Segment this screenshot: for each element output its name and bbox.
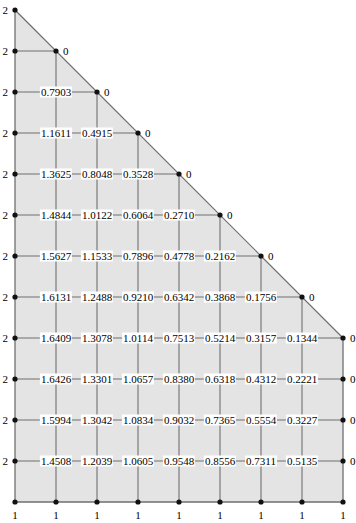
interior-value-label: 1.3301 [81, 374, 113, 385]
interior-value-label: 0.2710 [163, 210, 195, 221]
interior-value-label: 0.6342 [163, 292, 195, 303]
interior-value-label: 0.4915 [81, 128, 113, 139]
interior-value-label: 1.6426 [40, 374, 72, 385]
boundary-node [340, 335, 345, 340]
boundary-node [12, 335, 17, 340]
boundary-node [12, 294, 17, 299]
boundary-node [12, 253, 17, 258]
interior-value-label: 1.2488 [81, 292, 113, 303]
interior-value-label: 0.8048 [81, 169, 113, 180]
boundary-node [299, 294, 304, 299]
interior-value-label: 1.0122 [81, 210, 113, 221]
boundary-value-label: 1 [175, 510, 183, 521]
interior-value-label: 0.5554 [245, 415, 277, 426]
interior-value-label: 0.7311 [245, 456, 277, 467]
interior-value-label: 0.5135 [286, 456, 318, 467]
boundary-value-label: 1 [93, 510, 101, 521]
interior-value-label: 0.1756 [245, 292, 277, 303]
boundary-value-label: 0 [103, 87, 111, 98]
boundary-value-label: 0 [349, 374, 356, 385]
interior-value-label: 0.5214 [204, 333, 236, 344]
interior-value-label: 0.6318 [204, 374, 236, 385]
interior-value-label: 0.3528 [122, 169, 154, 180]
interior-value-label: 0.2162 [204, 251, 236, 262]
boundary-value-label: 2 [2, 333, 10, 344]
interior-value-label: 0.1344 [286, 333, 318, 344]
boundary-node [12, 130, 17, 135]
interior-value-label: 1.3625 [40, 169, 72, 180]
boundary-value-label: 2 [2, 456, 10, 467]
boundary-value-label: 1 [298, 510, 306, 521]
boundary-node [217, 499, 222, 504]
boundary-value-label: 2 [2, 128, 10, 139]
boundary-node [12, 171, 17, 176]
boundary-value-label: 1 [11, 510, 19, 521]
boundary-value-label: 2 [2, 374, 10, 385]
boundary-node [217, 212, 222, 217]
interior-value-label: 1.6409 [40, 333, 72, 344]
boundary-node [135, 499, 140, 504]
boundary-node [53, 499, 58, 504]
boundary-value-label: 2 [2, 292, 10, 303]
boundary-node [299, 499, 304, 504]
interior-value-label: 1.3042 [81, 415, 113, 426]
boundary-node [258, 253, 263, 258]
boundary-value-label: 2 [2, 251, 10, 262]
boundary-value-label: 0 [226, 210, 234, 221]
boundary-node [176, 499, 181, 504]
boundary-value-label: 0 [185, 169, 193, 180]
boundary-value-label: 2 [2, 415, 10, 426]
boundary-node [258, 499, 263, 504]
boundary-node [12, 7, 17, 12]
boundary-node [340, 499, 345, 504]
boundary-value-label: 2 [2, 210, 10, 221]
boundary-value-label: 2 [2, 5, 10, 16]
interior-value-label: 1.1611 [40, 128, 72, 139]
boundary-value-label: 1 [134, 510, 142, 521]
boundary-value-label: 1 [339, 510, 347, 521]
interior-value-label: 0.7513 [163, 333, 195, 344]
boundary-node [12, 417, 17, 422]
boundary-node [176, 171, 181, 176]
boundary-node [94, 499, 99, 504]
interior-value-label: 1.4844 [40, 210, 72, 221]
interior-value-label: 1.2039 [81, 456, 113, 467]
boundary-value-label: 0 [144, 128, 152, 139]
boundary-value-label: 0 [349, 415, 356, 426]
interior-value-label: 0.3227 [286, 415, 318, 426]
interior-value-label: 0.9548 [163, 456, 195, 467]
boundary-value-label: 1 [216, 510, 224, 521]
boundary-value-label: 0 [308, 292, 316, 303]
interior-value-label: 0.7903 [40, 87, 72, 98]
interior-value-label: 0.6064 [122, 210, 154, 221]
boundary-value-label: 2 [2, 46, 10, 57]
interior-value-label: 0.3868 [204, 292, 236, 303]
interior-value-label: 0.8556 [204, 456, 236, 467]
mesh-svg [0, 0, 356, 523]
interior-value-label: 1.0605 [122, 456, 154, 467]
interior-value-label: 1.4508 [40, 456, 72, 467]
interior-value-label: 0.4778 [163, 251, 195, 262]
interior-value-label: 1.1533 [81, 251, 113, 262]
boundary-value-label: 1 [257, 510, 265, 521]
boundary-node [12, 89, 17, 94]
interior-value-label: 0.2221 [286, 374, 318, 385]
boundary-node [12, 48, 17, 53]
boundary-node [12, 376, 17, 381]
interior-value-label: 1.0114 [122, 333, 154, 344]
interior-value-label: 0.7896 [122, 251, 154, 262]
boundary-node [12, 499, 17, 504]
interior-value-label: 0.9032 [163, 415, 195, 426]
interior-value-label: 1.3078 [81, 333, 113, 344]
interior-value-label: 0.4312 [245, 374, 277, 385]
boundary-node [340, 458, 345, 463]
interior-value-label: 1.0834 [122, 415, 154, 426]
boundary-node [53, 48, 58, 53]
boundary-value-label: 0 [349, 456, 356, 467]
interior-value-label: 1.5627 [40, 251, 72, 262]
boundary-node [135, 130, 140, 135]
boundary-node [12, 458, 17, 463]
interior-value-label: 0.7365 [204, 415, 236, 426]
boundary-node [12, 212, 17, 217]
boundary-value-label: 0 [267, 251, 275, 262]
